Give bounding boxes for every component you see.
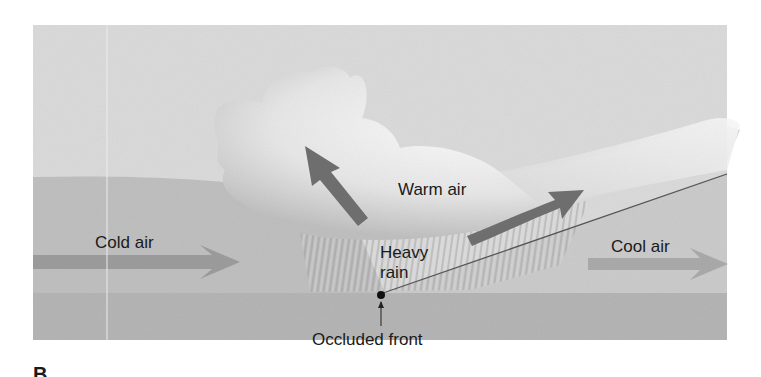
panel-letter: B (33, 364, 47, 377)
warm-air-label: Warm air (398, 180, 466, 199)
occluded-front-point (377, 291, 385, 299)
occluded-front-label: Occluded front (312, 330, 423, 349)
cold-air-label: Cold air (95, 233, 154, 252)
cool-air-label: Cool air (611, 237, 670, 256)
heavy-rain-label-line2: rain (380, 263, 408, 282)
occluded-front-diagram (0, 0, 761, 377)
heavy-rain-label-line1: Heavy (380, 243, 428, 262)
